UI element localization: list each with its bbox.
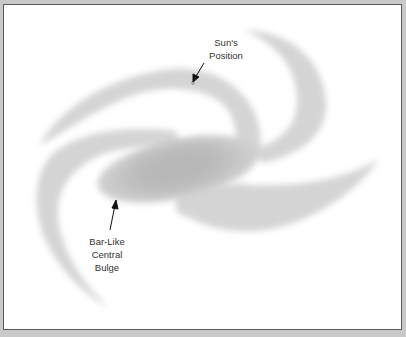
bulge-label-line1: Bar-Like	[72, 235, 142, 248]
sun-label-line1: Sun's	[191, 36, 261, 49]
sun-label-line2: Position	[191, 49, 261, 62]
central-bulge-label: Bar-Like Central Bulge	[72, 235, 142, 274]
sun-position-label: Sun's Position	[191, 36, 261, 62]
bulge-arrow	[110, 200, 118, 230]
diagram-frame: Sun's Position Bar-Like Central Bulge	[3, 4, 402, 330]
bulge-label-line2: Central	[72, 248, 142, 261]
bulge-label-line3: Bulge	[72, 261, 142, 274]
